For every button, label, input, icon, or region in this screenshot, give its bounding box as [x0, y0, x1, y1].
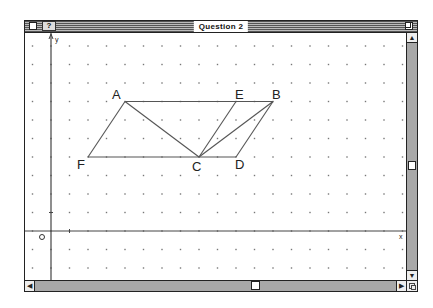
x-axis-label: x	[399, 233, 403, 240]
grid-dot	[32, 212, 33, 213]
grid-dot	[106, 101, 107, 102]
horizontal-scroll-thumb[interactable]	[251, 281, 260, 290]
grid-dot	[106, 249, 107, 250]
grid-dot	[328, 101, 329, 102]
grid-dot	[328, 45, 329, 46]
grid-dot	[328, 267, 329, 268]
grid-dot	[69, 64, 70, 65]
point-label-A: A	[112, 87, 121, 102]
grid-dot	[365, 212, 366, 213]
grid-dot	[235, 138, 236, 139]
grid-dot	[291, 175, 292, 176]
help-icon[interactable]: ?	[42, 21, 56, 31]
grid-dot	[106, 193, 107, 194]
grid-dot	[69, 138, 70, 139]
grid-dot	[328, 212, 329, 213]
resize-grow-icon[interactable]	[406, 280, 417, 291]
grid-dot	[32, 119, 33, 120]
grid-dot	[402, 45, 403, 46]
scroll-right-arrow-icon[interactable]: ▶	[396, 281, 406, 291]
grid-dot	[69, 193, 70, 194]
grid-dot	[161, 119, 162, 120]
grid-dot	[143, 249, 144, 250]
question-window: ? Question 2 yxAEBFCD ▲ ▼ ◀ ▶	[24, 20, 418, 292]
grid-dot	[272, 249, 273, 250]
horizontal-scrollbar[interactable]: ◀ ▶	[25, 280, 406, 291]
grid-dot	[309, 175, 310, 176]
grid-dot	[143, 64, 144, 65]
grid-dot	[161, 45, 162, 46]
grid-dot	[161, 193, 162, 194]
grid-dot	[309, 193, 310, 194]
grid-dot	[161, 212, 162, 213]
grid-dot	[87, 249, 88, 250]
grid-dot	[106, 45, 107, 46]
grid-dot	[328, 64, 329, 65]
segment-CE	[199, 102, 236, 158]
grid-dot	[272, 119, 273, 120]
grid-dot	[32, 249, 33, 250]
title-bar[interactable]: ? Question 2	[25, 21, 417, 33]
grid-dot	[32, 156, 33, 157]
grid-dot	[69, 45, 70, 46]
grid-dot	[365, 119, 366, 120]
grid-dot	[69, 101, 70, 102]
grid-dot	[328, 82, 329, 83]
grid-dot	[106, 64, 107, 65]
grid-dot	[124, 212, 125, 213]
geometry-canvas[interactable]: yxAEBFCD	[25, 33, 406, 280]
y-axis-label: y	[55, 36, 59, 44]
grid-dot	[32, 45, 33, 46]
grid-dot	[143, 175, 144, 176]
grid-dot	[217, 249, 218, 250]
grid-dot	[87, 64, 88, 65]
grid-dot	[180, 82, 181, 83]
grid-dot	[383, 193, 384, 194]
grid-dot	[254, 193, 255, 194]
grid-dot	[198, 175, 199, 176]
grid-dot	[254, 249, 255, 250]
grid-dot	[198, 64, 199, 65]
point-label-C: C	[192, 159, 201, 174]
grid-dot	[254, 175, 255, 176]
grid-dot	[180, 64, 181, 65]
grid-dot	[383, 175, 384, 176]
point-label-F: F	[77, 157, 85, 172]
segment-AC	[125, 102, 199, 158]
grid-dot	[365, 101, 366, 102]
grid-dot	[217, 267, 218, 268]
point-label-E: E	[235, 87, 244, 102]
grid-dot	[291, 101, 292, 102]
grid-dot	[143, 45, 144, 46]
grid-dot	[69, 249, 70, 250]
grid-dot	[291, 267, 292, 268]
point-label-B: B	[272, 87, 281, 102]
vertical-scroll-thumb[interactable]	[408, 161, 416, 170]
scroll-down-arrow-icon[interactable]: ▼	[407, 270, 417, 280]
grid-dot	[291, 119, 292, 120]
grid-dot	[124, 267, 125, 268]
zoom-box-icon[interactable]	[405, 22, 413, 30]
grid-dot	[198, 267, 199, 268]
close-box-icon[interactable]	[29, 22, 37, 30]
grid-dot	[254, 156, 255, 157]
grid-dot	[69, 119, 70, 120]
grid-dot	[180, 212, 181, 213]
geometry-plot: yxAEBFCD	[25, 33, 406, 280]
scroll-up-arrow-icon[interactable]: ▲	[407, 33, 417, 43]
vertical-scrollbar[interactable]: ▲ ▼	[406, 33, 417, 280]
grid-dot	[346, 175, 347, 176]
grid-dot	[309, 267, 310, 268]
grid-dot	[328, 175, 329, 176]
grid-dot	[235, 193, 236, 194]
scroll-left-arrow-icon[interactable]: ◀	[25, 281, 35, 291]
grid-dot	[217, 212, 218, 213]
grid-dot	[346, 138, 347, 139]
grid-dot	[235, 119, 236, 120]
grid-dot	[254, 267, 255, 268]
grid-dot	[87, 119, 88, 120]
grid-dot	[180, 175, 181, 176]
grid-dot	[180, 119, 181, 120]
grid-dot	[106, 267, 107, 268]
grid-dot	[87, 212, 88, 213]
